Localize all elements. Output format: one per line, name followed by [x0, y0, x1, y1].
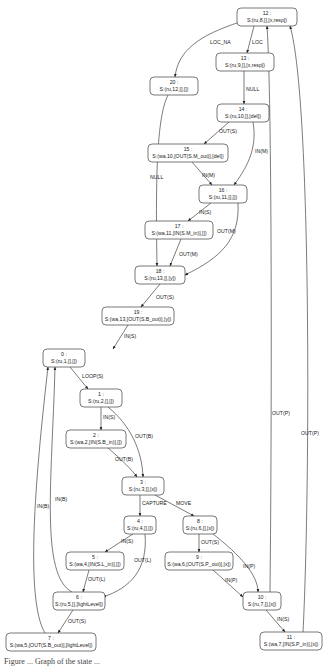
transition-label: IN(M)	[255, 148, 268, 154]
transition-label: OUT(M)	[179, 251, 198, 257]
state-node-4: 4 :S:(ru,4,[],[])	[124, 516, 156, 534]
state-id: 2 :	[93, 432, 99, 438]
state-label: S:(ru,11,[],[])	[209, 194, 238, 200]
state-node-11: 11 :S:(wa,7,[IN(S.P_in)],[x])	[260, 632, 322, 650]
state-label: S:(wa,4,[IN(S.L_in)],[])	[69, 561, 121, 567]
state-label: S:(wa,11,[IN(S.M_in)],[])	[151, 230, 207, 236]
transition-edge-7-0	[34, 367, 48, 633]
state-label: S:(ru,12,[],[])	[160, 86, 189, 92]
state-id: 5 :	[92, 554, 98, 560]
edge-labels: LOC_NALOCNULLOUT(S)IN(M)IN(M)NULLIN(S)OU…	[37, 39, 319, 624]
state-node-12: 12 :S:(ru,8,[],[x,resp])	[237, 8, 297, 26]
transition-label: CAPTURE	[142, 500, 167, 506]
transition-label: OUT(S)	[219, 128, 237, 134]
transition-label: IN(S)	[124, 333, 136, 339]
state-label: S:(ru,6,[],[x])	[186, 525, 215, 531]
state-node-10: 10 :S:(ru,7,[],[x])	[243, 592, 281, 610]
transition-edge-9-10	[213, 570, 243, 597]
state-diagram: LOC_NALOCNULLOUT(S)IN(M)IN(M)NULLIN(S)OU…	[0, 0, 335, 668]
state-node-8: 8 :S:(ru,6,[],[x])	[183, 516, 217, 534]
state-node-14: 14 :S:(ru,10,[],[del])	[217, 104, 269, 122]
state-label: S:(ru,10,[],[del])	[225, 113, 261, 119]
state-node-18: 18 :S:(ru,13,[],[y])	[135, 266, 185, 284]
transition-label: IN(P)	[243, 563, 255, 569]
figure-caption: Figure ... Graph of the state ...	[4, 657, 100, 666]
transition-label: NULL	[150, 174, 163, 180]
state-id: 14 :	[239, 106, 248, 112]
state-node-2: 2 :S:(wa,2,[IN(S.B_in)],[])	[66, 430, 126, 448]
state-id: 4 :	[137, 518, 143, 524]
transition-label: OUT(S)	[156, 294, 174, 300]
transition-label: OUT(L)	[88, 576, 106, 582]
state-id: 1 :	[98, 391, 104, 397]
state-id: 0 :	[61, 351, 67, 357]
state-id: 12 :	[263, 10, 272, 16]
state-node-20: 20 :S:(ru,12,[],[])	[150, 77, 198, 95]
state-node-15: 15 :S:(wa,10,[OUT(S.M_out)],[del])	[148, 144, 228, 162]
transition-label: OUT(S)	[68, 618, 86, 624]
transition-label: IN(P)	[225, 577, 237, 583]
transition-label: OUT(B)	[135, 433, 153, 439]
transition-label: OUT(P)	[272, 410, 290, 416]
state-id: 6 :	[76, 594, 82, 600]
transition-label: IN(B)	[37, 503, 49, 509]
state-label: S:(wa,7,[IN(S.P_in)],[x])	[264, 641, 319, 647]
state-label: S:(ru,9,[],[x,resp])	[225, 62, 265, 68]
transition-label: OUT(S)	[201, 539, 219, 545]
state-label: S:(ru,7,[],[x])	[248, 601, 277, 607]
transition-label: IN(B)	[55, 496, 67, 502]
state-id: 13 :	[241, 55, 250, 61]
state-label: S:(wa,10,[OUT(S.M_out)],[del])	[152, 153, 224, 159]
state-node-9: 9 :S:(wa,6,[OUT(S.P_out)],[x])	[165, 552, 233, 570]
state-label: S:(ru,13,[],[y])	[144, 275, 176, 281]
state-label: S:(ru,2,[],[])	[88, 398, 114, 404]
state-node-13: 13 :S:(ru,9,[],[x,resp])	[216, 53, 274, 71]
transition-label: OUT(P)	[301, 430, 319, 436]
transition-label: OUT(L)	[134, 557, 152, 563]
state-label: S:(wa,2,[IN(S.B_in)],[])	[70, 439, 122, 445]
state-id: 10 :	[258, 594, 267, 600]
transition-label: MOVE	[176, 500, 192, 506]
transition-edge-11-12	[290, 26, 308, 632]
state-id: 16 :	[219, 187, 228, 193]
state-label: S:(ru,5,[],[lightLevel])	[55, 601, 103, 607]
state-id: 3 :	[140, 479, 146, 485]
transition-label: NULL	[246, 86, 259, 92]
state-node-7: 7 :S:(wa,5,[OUT(S.B_out)],[lightLevel])	[6, 633, 96, 651]
state-node-0: 0 :S:(ru,1,[],[])	[43, 349, 85, 367]
state-id: 8 :	[197, 518, 203, 524]
state-label: S:(ru,4,[],[])	[127, 525, 153, 531]
transition-label: OUT(M)	[217, 228, 236, 234]
state-id: 18 :	[156, 268, 165, 274]
transition-label: IN(S)	[277, 616, 289, 622]
state-node-5: 5 :S:(wa,4,[IN(S.L_in)],[])	[66, 552, 124, 570]
state-node-16: 16 :S:(ru,11,[],[])	[199, 185, 247, 203]
transition-label: LOOP(S)	[82, 373, 104, 379]
transition-label: LOC	[252, 39, 263, 45]
state-label: S:(wa,13,[OUT(S.B_out)],[y])	[105, 316, 172, 322]
state-node-1: 1 :S:(ru,2,[],[])	[80, 389, 122, 407]
transition-label: IN(M)	[202, 172, 215, 178]
state-label: S:(ru,8,[],[x,resp])	[247, 17, 287, 23]
transition-edge-2-3	[108, 448, 137, 477]
state-id: 17 :	[175, 223, 184, 229]
state-node-19: 19 :S:(wa,13,[OUT(S.B_out)],[y])	[102, 307, 174, 325]
state-node-17: 17 :S:(wa,11,[IN(S.M_in)],[])	[145, 221, 213, 239]
transition-label: IN(S)	[121, 538, 133, 544]
state-id: 19 :	[134, 309, 143, 315]
transition-label: IN(S)	[103, 414, 115, 420]
state-id: 15 :	[184, 146, 193, 152]
transition-label: LOC_NA	[210, 39, 231, 45]
transition-label: IN(S)	[199, 209, 211, 215]
state-label: S:(wa,6,[OUT(S.P_out)],[x])	[167, 561, 231, 567]
transition-edge-14-16	[234, 122, 254, 185]
transition-edge-20-18	[156, 95, 168, 266]
state-label: S:(ru,1,[],[])	[51, 358, 77, 364]
state-node-3: 3 :S:(ru,3,[],[x])	[122, 477, 164, 495]
state-id: 7 :	[48, 635, 54, 641]
state-label: S:(ru,3,[],[x])	[129, 486, 158, 492]
state-id: 11 :	[287, 634, 295, 640]
state-id: 20 :	[170, 79, 179, 85]
state-node-6: 6 :S:(ru,5,[],[lightLevel])	[53, 592, 105, 610]
state-id: 9 :	[196, 554, 202, 560]
